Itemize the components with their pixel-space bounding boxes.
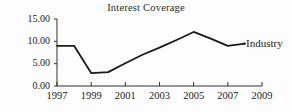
x-axis-tick-label: 2003 xyxy=(149,90,170,101)
y-axis-tick-label: 10.00 xyxy=(6,35,50,46)
chart-container: Interest Coverage 15.0010.005.000.00 199… xyxy=(0,0,292,112)
x-axis-tick-label: 2007 xyxy=(217,90,238,101)
x-axis-ticks xyxy=(57,82,262,86)
y-axis-tick-label: 5.00 xyxy=(6,57,50,68)
series-line-industry xyxy=(57,32,245,73)
series-label-industry: Industry xyxy=(246,37,283,49)
x-axis-tick-label: 2009 xyxy=(252,90,273,101)
y-axis-tick-label: 0.00 xyxy=(6,80,50,91)
x-axis-tick-label: 2001 xyxy=(115,90,136,101)
axis-lines xyxy=(57,19,262,86)
x-axis-tick-label: 1997 xyxy=(47,90,68,101)
x-axis-tick-label: 1999 xyxy=(81,90,102,101)
y-axis-tick-label: 15.00 xyxy=(6,13,50,24)
data-series-group xyxy=(57,32,245,73)
x-axis-tick-label: 2005 xyxy=(183,90,204,101)
